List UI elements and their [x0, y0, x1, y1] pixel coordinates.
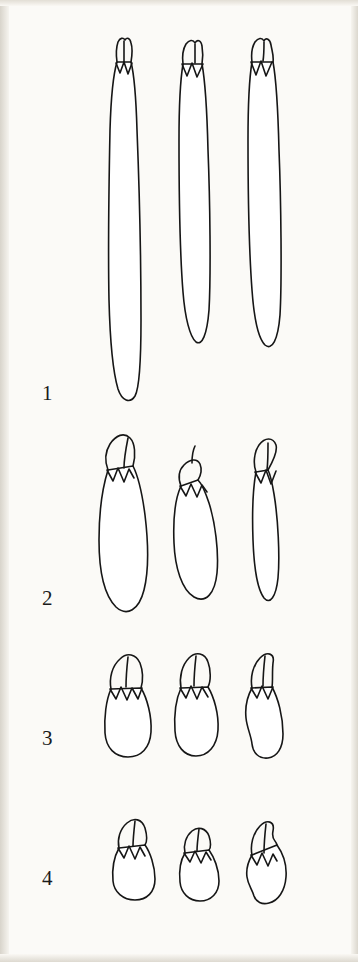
fruit-r2c2	[174, 446, 218, 599]
row-label-4: 4	[42, 868, 53, 889]
fruit-r4c1	[113, 820, 155, 900]
fruit-r3c2	[175, 654, 218, 756]
fruit-r3c1	[105, 655, 151, 757]
figure-plate: 1 2 3 4	[0, 0, 358, 962]
fruit-row-2	[99, 435, 279, 612]
fruit-r2c3	[253, 439, 279, 601]
fruit-r1c1	[109, 38, 141, 400]
row-label-2: 2	[42, 588, 53, 609]
fruit-r1c3	[248, 38, 281, 346]
fruit-r1c2	[179, 40, 210, 342]
row-label-3: 3	[42, 728, 53, 749]
fruit-r4c2	[180, 828, 219, 901]
fruit-row-3	[105, 654, 283, 758]
fruit-row-1	[109, 38, 282, 400]
fruit-row-4	[113, 820, 286, 904]
fruit-r3c3	[246, 654, 283, 758]
fruit-r4c3	[247, 822, 286, 904]
row-label-1: 1	[42, 383, 53, 404]
fruit-shape-drawings	[0, 0, 358, 962]
fruit-r2c1	[99, 435, 148, 612]
